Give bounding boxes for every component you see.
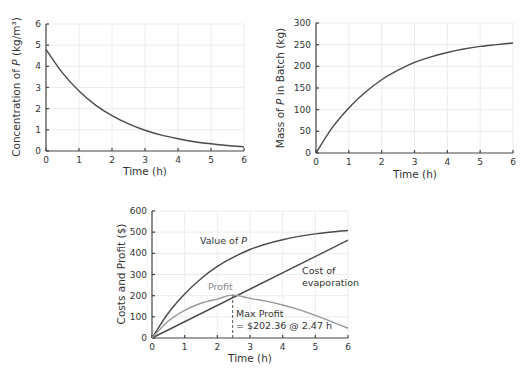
x-tick-label: 3 [142, 155, 148, 165]
y-tick-label: 150 [294, 83, 311, 93]
mass-chart: 0123456050100150200250300 Time (h) Mass … [274, 18, 516, 180]
x-tick-label: 3 [247, 342, 253, 352]
y-tick-label: 300 [294, 18, 311, 28]
max-profit-label-line2: = $202.36 @ 2.47 h [236, 320, 332, 331]
costs-y-label: Costs and Profit ($) [115, 224, 127, 325]
x-tick-label: 0 [313, 157, 319, 167]
y-tick-label: 400 [130, 248, 147, 258]
concentration-y-label: Concentration of P (kg/m³) [10, 17, 22, 157]
x-tick-label: 4 [444, 157, 450, 167]
x-tick-label: 6 [510, 157, 516, 167]
y-tick-label: 50 [300, 126, 312, 136]
y-tick-label: 200 [130, 291, 147, 301]
costs-profit-chart: 01234560100200300400500600 Time (h) Cost… [115, 206, 359, 364]
x-tick-label: 6 [241, 155, 247, 165]
costs-x-label: Time (h) [227, 352, 272, 364]
x-tick-label: 2 [379, 157, 385, 167]
y-tick-label: 6 [35, 19, 41, 29]
y-tick-label: 4 [35, 61, 41, 71]
profit-label: Profit [208, 281, 233, 292]
x-tick-label: 4 [280, 342, 286, 352]
y-tick-label: 0 [141, 333, 147, 343]
x-tick-label: 5 [477, 157, 483, 167]
x-tick-label: 0 [149, 342, 155, 352]
x-tick-label: 6 [345, 342, 351, 352]
mass-y-label: Mass of P in Batch (kg) [274, 28, 286, 148]
value-of-p-label: Value of P [200, 235, 247, 246]
y-tick-label: 600 [130, 206, 147, 216]
y-tick-label: 300 [130, 270, 147, 280]
max-profit-label-line1: Max Profit [236, 308, 284, 319]
mass-x-label: Time (h) [392, 168, 437, 180]
cost-of-evaporation-label-line2: evaporation [302, 277, 359, 288]
x-tick-label: 4 [175, 155, 181, 165]
y-tick-label: 200 [294, 61, 311, 71]
y-tick-label: 1 [35, 125, 41, 135]
x-tick-label: 5 [208, 155, 214, 165]
mass-tick-labels: 0123456050100150200250300 [294, 18, 516, 167]
y-tick-label: 0 [35, 146, 41, 156]
y-tick-label: 0 [305, 148, 311, 158]
y-tick-label: 250 [294, 40, 311, 50]
x-tick-label: 5 [312, 342, 318, 352]
x-tick-label: 2 [109, 155, 115, 165]
y-tick-label: 3 [35, 83, 41, 93]
x-tick-label: 0 [43, 155, 49, 165]
x-tick-label: 2 [214, 342, 220, 352]
y-tick-label: 2 [35, 104, 41, 114]
cost-of-evaporation-label-line1: Cost of [302, 265, 336, 276]
concentration-x-label: Time (h) [122, 165, 167, 177]
concentration-chart: 01234560123456 Time (h) Concentration of… [10, 17, 247, 177]
x-tick-label: 1 [182, 342, 188, 352]
x-tick-label: 1 [76, 155, 82, 165]
y-tick-label: 100 [130, 312, 147, 322]
mass-gridlines [316, 23, 513, 153]
concentration-tick-labels: 01234560123456 [35, 19, 247, 165]
y-tick-label: 5 [35, 40, 41, 50]
x-tick-label: 3 [412, 157, 418, 167]
figure: 01234560123456 Time (h) Concentration of… [0, 0, 532, 383]
y-tick-label: 100 [294, 105, 311, 115]
y-tick-label: 500 [130, 227, 147, 237]
x-tick-label: 1 [346, 157, 352, 167]
